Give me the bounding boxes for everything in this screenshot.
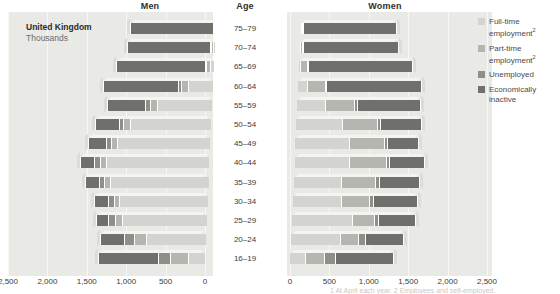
segment-men-inactive	[130, 23, 213, 34]
segment-men-inactive	[116, 61, 205, 72]
segment-men-unemployed	[178, 81, 181, 92]
column-header-age: Age	[212, 1, 278, 11]
segment-women-inactive	[304, 23, 396, 34]
segment-men-full_time	[117, 138, 210, 149]
segment-women-inactive	[358, 100, 421, 111]
segment-women-part_time	[308, 81, 326, 92]
segment-men-full_time	[188, 253, 205, 264]
segment-men-full_time	[210, 61, 214, 72]
chart-row: 35–39	[0, 174, 560, 191]
segment-men-inactive	[96, 215, 109, 226]
segment-men-unemployed	[106, 138, 111, 149]
segment-men-unemployed	[124, 234, 134, 245]
segment-men-unemployed	[158, 253, 170, 264]
segment-men-full_time	[215, 23, 216, 34]
segment-men-full_time	[188, 81, 213, 92]
age-label-50-54: 50–54	[218, 120, 272, 129]
segment-men-part_time	[100, 157, 106, 168]
bar-men-30-34	[94, 196, 207, 207]
legend-label-inactive: Economically inactive	[489, 85, 558, 105]
chart-row: 55–59	[0, 97, 560, 114]
chart-row: 50–54	[0, 116, 560, 133]
bar-women-20-24	[291, 234, 404, 245]
chart-row: 40–44	[0, 154, 560, 171]
tick-men-2,000: 2,000	[27, 277, 67, 286]
chart-row: 45–49	[0, 135, 560, 152]
legend-item-inactive[interactable]: Economically inactive	[478, 85, 558, 105]
segment-men-inactive	[127, 42, 210, 53]
legend-label-full_time: Full-time employment2	[489, 17, 558, 39]
bar-women-25-29	[292, 215, 416, 226]
segment-men-full_time	[146, 234, 206, 245]
segment-women-full_time	[290, 253, 306, 264]
segment-men-part_time	[170, 253, 188, 264]
segment-men-part_time	[115, 215, 122, 226]
chart-row: 16–19	[0, 250, 560, 267]
segment-women-part_time	[306, 253, 326, 264]
legend-swatch-full_time	[478, 18, 485, 25]
segment-women-full_time	[295, 157, 350, 168]
bar-women-65-69	[299, 61, 413, 72]
tick-women-0: 0	[270, 277, 310, 286]
segment-men-full_time	[122, 215, 207, 226]
segment-women-full_time	[298, 81, 307, 92]
segment-men-part_time	[111, 138, 117, 149]
legend-footnote-marker: 2	[533, 54, 536, 60]
segment-men-full_time	[130, 119, 211, 130]
age-label-45-49: 45–49	[218, 139, 272, 148]
bar-men-55-59	[107, 100, 213, 111]
segment-women-full_time	[293, 196, 342, 207]
chart-row: 30–34	[0, 193, 560, 210]
bar-women-75-79	[301, 23, 397, 34]
segment-men-inactive	[103, 81, 178, 92]
segment-men-unemployed	[119, 119, 124, 130]
segment-men-unemployed	[94, 157, 100, 168]
segment-women-full_time	[297, 100, 325, 111]
column-header-women: Women	[340, 1, 430, 11]
bar-women-16-19	[290, 253, 394, 264]
segment-women-inactive	[390, 157, 425, 168]
tick-men-1,500: 1,500	[67, 277, 107, 286]
bar-women-55-59	[297, 100, 421, 111]
legend-item-unemployed[interactable]: Unemployed	[478, 70, 558, 80]
segment-women-part_time	[342, 196, 370, 207]
chart-footnote: 1 At April each year. 2 Employees and se…	[330, 287, 495, 294]
bar-women-30-34	[293, 196, 418, 207]
tick-women-1,000: 1,000	[349, 277, 389, 286]
tick-women-2,000: 2,000	[428, 277, 468, 286]
chart-row: 20–24	[0, 231, 560, 248]
segment-men-part_time	[150, 100, 157, 111]
chart-row: 25–29	[0, 212, 560, 229]
bar-women-60-64	[298, 81, 422, 92]
segment-men-full_time	[119, 196, 207, 207]
bar-men-35-39	[85, 177, 208, 188]
segment-men-unemployed	[99, 177, 105, 188]
segment-women-unemployed	[359, 234, 366, 245]
tick-women-2,500: 2,500	[467, 277, 507, 286]
segment-women-inactive	[374, 196, 418, 207]
chart-row: 65–69	[0, 58, 560, 75]
legend-item-part_time[interactable]: Part-time employment2	[478, 44, 558, 66]
age-label-20-24: 20–24	[218, 235, 272, 244]
segment-women-part_time	[350, 138, 385, 149]
segment-women-part_time	[343, 119, 378, 130]
segment-men-part_time	[181, 81, 188, 92]
segment-men-inactive	[100, 234, 124, 245]
segment-women-inactive	[388, 138, 419, 149]
segment-men-inactive	[98, 253, 158, 264]
segment-women-full_time	[292, 215, 353, 226]
age-label-35-39: 35–39	[218, 178, 272, 187]
segment-men-unemployed	[108, 196, 114, 207]
legend-swatch-inactive	[478, 86, 485, 93]
segment-men-inactive	[95, 119, 119, 130]
bar-men-60-64	[103, 81, 213, 92]
segment-women-full_time	[291, 234, 341, 245]
bar-men-20-24	[100, 234, 206, 245]
legend-item-full_time[interactable]: Full-time employment2	[478, 17, 558, 39]
bar-women-45-49	[295, 138, 419, 149]
segment-women-part_time	[341, 234, 358, 245]
age-label-60-64: 60–64	[218, 82, 272, 91]
tick-men-0: 0	[185, 277, 225, 286]
segment-men-unemployed	[145, 100, 149, 111]
segment-women-inactive	[381, 119, 422, 130]
